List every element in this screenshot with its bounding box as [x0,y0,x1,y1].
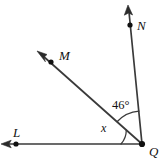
point-l-dot [13,141,18,146]
point-m-dot [48,59,53,64]
point-label-q: Q [149,145,158,158]
point-label-l: L [13,126,20,139]
angle-measure-label-46: 46° [112,99,130,112]
angle-diagram-figure: N M L Q 46° x [0,0,165,160]
point-n-dot [127,22,132,27]
point-label-m: M [59,49,70,62]
angle-variable-label-x: x [101,122,106,134]
point-label-n: N [137,19,146,32]
angle-lqm-arc [121,130,126,144]
ray-qm-arrowhead [37,51,47,62]
angle-mqn-arc [117,111,139,121]
vertex-q-dot [139,141,145,147]
